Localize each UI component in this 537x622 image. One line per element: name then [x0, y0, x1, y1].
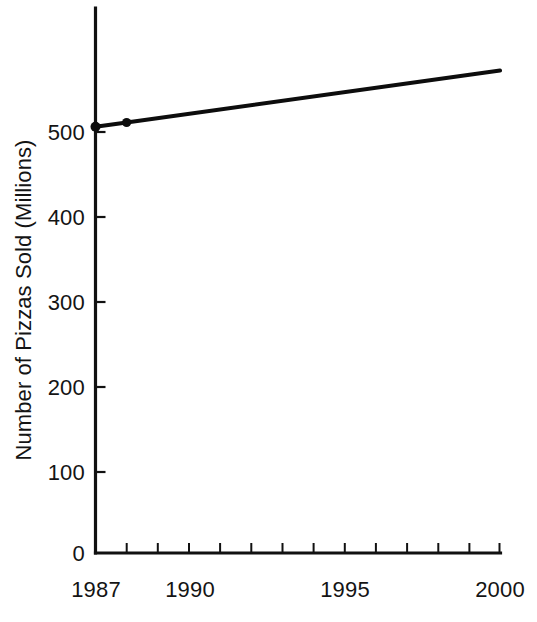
y-tick-label-400: 400	[48, 205, 85, 230]
y-tick-label-0: 0	[73, 541, 85, 566]
x-tick-label-2000: 2000	[475, 577, 525, 602]
data-point-1987	[91, 122, 101, 132]
y-tick-label-100: 100	[48, 460, 85, 485]
x-tick-label-1987: 1987	[71, 577, 121, 602]
y-tick-label-200: 200	[48, 375, 85, 400]
data-point-1988	[122, 118, 131, 127]
chart-figure: 500 400 300 200 100 0 1987 1990 1995 200…	[0, 0, 537, 622]
y-tick-label-500: 500	[48, 120, 85, 145]
y-tick-label-300: 300	[48, 290, 85, 315]
x-tick-label-1995: 1995	[320, 577, 370, 602]
y-axis-title: Number of Pizzas Sold (Millions)	[11, 139, 36, 460]
x-tick-label-1990: 1990	[165, 577, 215, 602]
line-chart-canvas: 500 400 300 200 100 0 1987 1990 1995 200…	[0, 0, 537, 622]
